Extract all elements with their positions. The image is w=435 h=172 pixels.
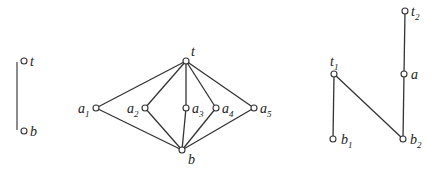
node-t (21, 58, 27, 64)
label-a3: a3 (192, 101, 204, 119)
edge-a1-b (96, 108, 182, 150)
node-a5 (251, 105, 257, 111)
label-t1: t1 (330, 54, 338, 72)
diagram-m5: ta1a2a3a4a5b (78, 44, 272, 167)
node-b2 (400, 136, 406, 142)
label-a5: a5 (260, 101, 272, 119)
node-b1 (330, 136, 336, 142)
edge-t2-a (404, 11, 405, 74)
label-b: b (188, 152, 195, 167)
edge-a2-b (145, 108, 182, 150)
edge-a3-b (182, 108, 186, 150)
edge-t1-b2 (334, 74, 403, 139)
label-t2: t2 (411, 4, 420, 22)
label-a2: a2 (127, 101, 139, 119)
label-b1: b1 (341, 132, 353, 150)
label-b2: b2 (410, 132, 422, 150)
label-a1: a1 (78, 101, 90, 119)
node-a2 (142, 105, 148, 111)
label-a: a (411, 67, 418, 82)
node-a3 (183, 105, 189, 111)
node-a (401, 71, 407, 77)
node-t (183, 58, 189, 64)
diagram-chain: tb (17, 54, 37, 139)
edge-a-b2 (403, 74, 404, 139)
label-a4: a4 (222, 101, 234, 119)
edge-t-a2 (145, 61, 186, 108)
edge-t-a4 (186, 61, 216, 108)
label-t: t (191, 44, 196, 59)
node-b (21, 128, 27, 134)
node-b (179, 147, 185, 153)
node-a1 (93, 105, 99, 111)
edge-t1-b1 (333, 74, 334, 139)
label-t: t (30, 54, 35, 69)
edge-t-a1 (96, 61, 186, 108)
node-a4 (213, 105, 219, 111)
label-b: b (30, 124, 37, 139)
node-t2 (402, 8, 408, 14)
diagram-n: t2at1b1b2 (330, 4, 422, 150)
lattice-diagrams: tbta1a2a3a4a5bt2at1b1b2 (0, 0, 435, 172)
